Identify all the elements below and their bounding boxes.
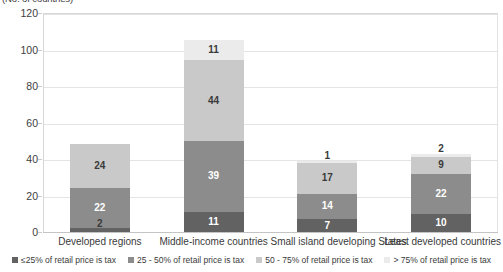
chart-legend: ≤25% of retail price is tax25 - 50% of r… <box>0 255 503 265</box>
legend-swatch-icon <box>256 257 262 263</box>
y-axis-tick-mark <box>38 196 42 197</box>
legend-label: ≤25% of retail price is tax <box>21 255 116 265</box>
x-axis-category-label: Least developed countries <box>384 236 498 247</box>
y-axis-tick-label: 20 <box>4 190 38 202</box>
y-axis-tick-label: 80 <box>4 80 38 92</box>
y-axis-tick-mark <box>38 13 42 14</box>
y-axis-tick-mark <box>38 50 42 51</box>
bar-segment-value: 44 <box>208 96 219 106</box>
bar-segment[interactable]: 17 <box>297 163 357 194</box>
bar-segment-value: 22 <box>436 189 447 199</box>
legend-item[interactable]: 25 - 50% of retail price is tax <box>128 255 244 265</box>
legend-swatch-icon <box>128 257 134 263</box>
bar-segment-value: 17 <box>322 173 333 183</box>
x-axis-category-label: Developed regions <box>43 236 157 247</box>
legend-swatch-icon <box>384 257 390 263</box>
y-axis-tick-mark <box>38 123 42 124</box>
y-axis-tick-label: 120 <box>4 7 38 19</box>
y-axis-tick-mark <box>38 232 42 233</box>
y-axis-tick-mark <box>38 159 42 160</box>
bar-segment[interactable]: 2 <box>70 228 130 232</box>
bar-segment-value: 24 <box>94 161 105 171</box>
gridline <box>44 124 497 125</box>
y-axis-tick-label: 0 <box>4 226 38 238</box>
x-axis-line <box>43 232 498 233</box>
bar-stack[interactable]: 117147 <box>297 161 357 232</box>
bar-segment-value: 10 <box>436 218 447 228</box>
bar-segment-value: 2 <box>411 144 471 154</box>
x-axis-category-label: Middle-income countries <box>157 236 271 247</box>
bar-segment-value: 11 <box>208 45 219 55</box>
legend-swatch-icon <box>12 257 18 263</box>
bar-segment[interactable]: 14 <box>297 194 357 220</box>
bar-stack[interactable]: 24222 <box>70 144 130 232</box>
y-axis-tick-mark <box>38 86 42 87</box>
bar-segment-value: 22 <box>94 203 105 213</box>
bar-segment-value: 7 <box>325 221 331 231</box>
bar-segment[interactable]: 24 <box>70 144 130 188</box>
gridline <box>44 14 497 15</box>
bar-segment[interactable]: 10 <box>411 214 471 232</box>
stacked-bar-chart: (No. of countries) 020406080100120 ≤25% … <box>0 0 503 272</box>
y-axis: 020406080100120 <box>0 0 38 272</box>
bar-segment-value: 1 <box>297 151 357 161</box>
legend-label: 50 - 75% of retail price is tax <box>265 255 372 265</box>
y-axis-tick-label: 100 <box>4 44 38 56</box>
bar-segment-value: 9 <box>438 160 444 170</box>
legend-item[interactable]: ≤25% of retail price is tax <box>12 255 116 265</box>
bar-segment[interactable]: 22 <box>411 174 471 214</box>
bar-stack[interactable]: 11443911 <box>184 40 244 232</box>
bar-segment[interactable]: 11 <box>184 40 244 60</box>
bar-stack[interactable]: 292210 <box>411 154 471 232</box>
bar-segment-value: 11 <box>208 217 219 227</box>
legend-item[interactable]: > 75% of retail price is tax <box>384 255 491 265</box>
legend-label: 25 - 50% of retail price is tax <box>137 255 244 265</box>
bar-segment-value: 2 <box>70 219 130 229</box>
bar-segment[interactable]: 9 <box>411 157 471 173</box>
gridline <box>44 51 497 52</box>
y-axis-tick-label: 40 <box>4 153 38 165</box>
legend-label: > 75% of retail price is tax <box>393 255 491 265</box>
bar-segment-value: 14 <box>322 201 333 211</box>
bar-segment-value: 39 <box>208 171 219 181</box>
bar-segment[interactable]: 39 <box>184 141 244 212</box>
bar-segment[interactable]: 7 <box>297 219 357 232</box>
x-axis-category-label: Small island developing States <box>271 236 385 247</box>
bar-segment[interactable]: 11 <box>184 212 244 232</box>
y-axis-tick-label: 60 <box>4 117 38 129</box>
legend-item[interactable]: 50 - 75% of retail price is tax <box>256 255 372 265</box>
bar-segment[interactable]: 44 <box>184 60 244 140</box>
gridline <box>44 87 497 88</box>
